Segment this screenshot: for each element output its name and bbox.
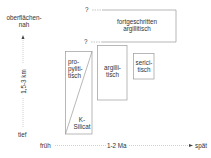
sericitic-label-line2: tisch bbox=[134, 66, 154, 73]
arrow-up-icon bbox=[22, 35, 25, 39]
propylitic-label-line3: tisch bbox=[68, 72, 83, 79]
x-axis-left-label: früh bbox=[40, 142, 51, 149]
uncertainty-mark-top: ? bbox=[85, 6, 89, 13]
propylitic-label: pro- pyliti- tisch bbox=[68, 58, 83, 79]
advanced-argillic-label-line2: argillitisch bbox=[106, 25, 168, 32]
argillic-label-line1: argilli- bbox=[98, 64, 127, 71]
x-axis-middle-label: 1-2 Ma bbox=[107, 142, 127, 149]
y-axis-bottom-label: tief bbox=[18, 131, 26, 138]
potassic-label: K- Silicat bbox=[72, 116, 92, 130]
y-axis-top-label: oberflächen- nah bbox=[6, 14, 42, 28]
potassic-label-line2: Silicat bbox=[72, 123, 92, 130]
x-axis-right-label: spät bbox=[195, 142, 207, 149]
advanced-argillic-label: fortgeschritten argillitisch bbox=[106, 18, 168, 32]
uncertainty-mark-bottom: ? bbox=[84, 38, 88, 45]
sericitic-label: serici- tisch bbox=[134, 59, 154, 73]
argillic-label-line2: tisch bbox=[98, 71, 127, 78]
advanced-argillic-label-line1: fortgeschritten bbox=[106, 18, 168, 25]
y-axis-top-label-line2: nah bbox=[6, 21, 42, 28]
arrow-right-icon bbox=[189, 144, 193, 147]
y-axis-top-label-line1: oberflächen- bbox=[6, 14, 42, 21]
sericitic-label-line1: serici- bbox=[134, 59, 154, 66]
y-axis-depth-label: 1,5-3 km bbox=[20, 57, 27, 107]
propylitic-label-line2: pyliti- bbox=[68, 65, 83, 72]
potassic-label-line1: K- bbox=[72, 116, 92, 123]
propylitic-label-line1: pro- bbox=[68, 58, 83, 65]
argillic-label: argilli- tisch bbox=[98, 64, 127, 78]
